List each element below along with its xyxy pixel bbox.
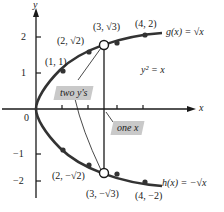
point-2-sqrt2: [86, 49, 91, 54]
x-axis-label: x: [199, 103, 203, 113]
y-tick-1: 1: [21, 68, 26, 78]
label-point-3-sqrt3: (3, √3): [93, 22, 120, 32]
label-point-2-sqrt2: (2, √2): [57, 36, 84, 46]
point-4-neg2: [142, 179, 147, 184]
callout-one-x: one x: [111, 121, 145, 135]
point-3-neg-sqrt3-dot: [114, 171, 119, 176]
g-function-label: g(x) = √x: [166, 27, 204, 37]
label-point-4-2: (4, 2): [135, 19, 157, 29]
origin-label: 0: [24, 113, 29, 123]
equation-label: y² = x: [141, 65, 165, 75]
point-4-2: [142, 32, 147, 37]
callout-two-ys: two y's: [54, 86, 94, 100]
y-tick-2: 2: [21, 32, 26, 42]
point-2-neg-sqrt2: [86, 162, 91, 167]
y-axis-label: y: [33, 0, 37, 10]
x-axis-arrow-icon: [187, 106, 196, 112]
y-tick-neg2: −2: [13, 176, 24, 186]
h-function-label: h(x) = −√x: [162, 178, 207, 188]
label-point-3-neg-sqrt3: (3, −√3): [86, 189, 119, 199]
label-point-2-neg-sqrt2: (2, −√2): [52, 171, 85, 181]
y-tick-neg1: −1: [13, 149, 24, 159]
point-1-neg1: [60, 147, 65, 152]
point-3-sqrt3-dot: [114, 40, 119, 45]
label-point-1-1: (1, 1): [45, 57, 67, 67]
point-1-1: [60, 68, 65, 73]
label-point-4-neg2: (4, −2): [135, 191, 162, 201]
